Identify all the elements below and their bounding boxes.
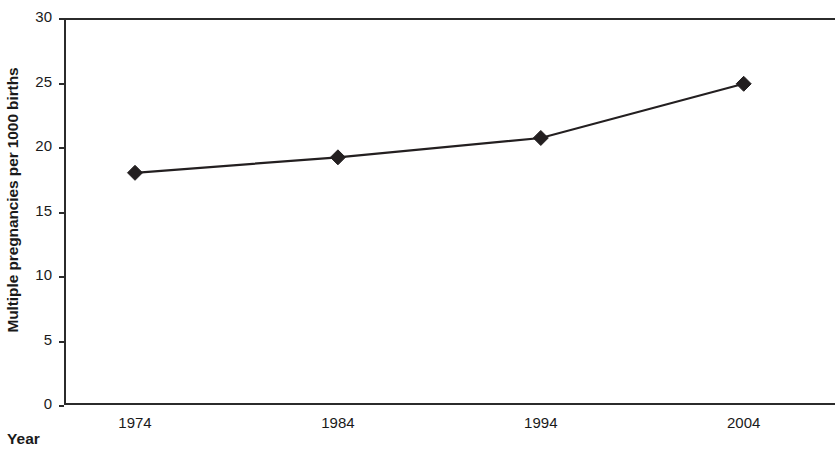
y-axis-tick: 5 — [0, 341, 64, 342]
y-axis-tick-mark — [59, 83, 64, 85]
line-chart: Multiple pregnancies per 1000 births 302… — [0, 0, 835, 455]
y-axis-tick-label: 5 — [44, 331, 52, 348]
x-axis-title-wrapper: Year — [0, 430, 835, 448]
y-axis-title: Multiple pregnancies per 1000 births — [4, 0, 26, 410]
y-axis-tick-mark — [59, 405, 64, 407]
x-axis-tick-label: 1984 — [293, 414, 383, 431]
plot-area — [64, 18, 835, 405]
y-axis-tick-label: 0 — [44, 395, 52, 412]
y-axis-tick: 30 — [0, 18, 64, 19]
y-axis-tick: 10 — [0, 276, 64, 277]
x-axis-tick-label: 1994 — [496, 414, 586, 431]
x-axis-title: Year — [7, 430, 40, 447]
y-axis-tick: 0 — [0, 405, 64, 406]
y-axis-tick-mark — [59, 341, 64, 343]
x-axis-tick-label: 1974 — [90, 414, 180, 431]
y-axis-tick-mark — [59, 18, 64, 20]
y-axis-tick-label: 15 — [35, 202, 52, 219]
y-axis-tick-label: 30 — [35, 8, 52, 25]
y-axis-tick: 25 — [0, 83, 64, 84]
y-axis-tick-mark — [59, 147, 64, 149]
y-axis-tick-mark — [59, 276, 64, 278]
y-axis-tick-label: 20 — [35, 137, 52, 154]
y-axis-tick-mark — [59, 212, 64, 214]
x-axis-tick-label: 2004 — [699, 414, 789, 431]
y-axis-tick-label: 10 — [35, 266, 52, 283]
y-axis-tick: 20 — [0, 147, 64, 148]
y-axis-tick-label: 25 — [35, 73, 52, 90]
y-axis-tick: 15 — [0, 212, 64, 213]
